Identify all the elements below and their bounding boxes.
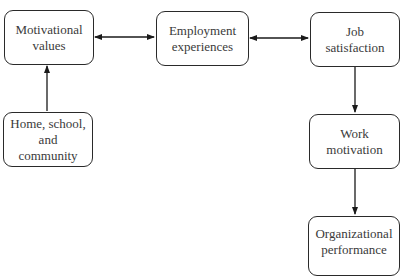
node-label: Job satisfaction bbox=[325, 24, 384, 56]
node-home-school-community: Home, school, and community bbox=[3, 112, 93, 167]
node-label: Organizational performance bbox=[315, 226, 392, 258]
node-label: Motivational values bbox=[15, 22, 82, 54]
node-work-motivation: Work motivation bbox=[309, 114, 400, 169]
node-label: Home, school, and community bbox=[8, 116, 88, 164]
node-motivational-values: Motivational values bbox=[4, 10, 94, 65]
node-label: Work motivation bbox=[326, 126, 382, 158]
node-organizational-performance: Organizational performance bbox=[308, 216, 400, 276]
node-job-satisfaction: Job satisfaction bbox=[310, 12, 400, 67]
node-employment-experiences: Employment experiences bbox=[156, 11, 249, 66]
node-label: Employment experiences bbox=[169, 23, 236, 55]
